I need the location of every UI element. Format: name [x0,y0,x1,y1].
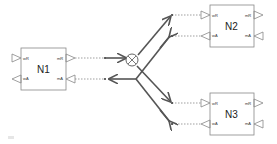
port-n1-wA-label: wA [23,76,29,81]
port-n1-wA-icon [12,75,21,83]
port-n1-wR-label: wR [23,56,29,61]
port-n2-wR-icon [201,11,210,19]
port-n3-mR-label: mR [245,101,251,106]
fork-lines [105,17,170,122]
node-n3-label: N3 [225,109,238,120]
node-n2-label: N2 [225,21,238,32]
port-n3-wR-icon [201,99,210,107]
port-n1-mR-label: mR [57,56,63,61]
port-n2-mA-label: mA [245,33,251,38]
node-n2[interactable]: N2 wR wA mR mA [201,5,263,47]
port-n2-wR-label: wR [212,13,218,18]
port-n3-mR-icon [254,99,263,107]
port-n1-mA-icon [66,75,75,83]
port-n3-wR-label: wR [212,101,218,106]
faint-mark [8,136,14,139]
port-n1-wR-icon [12,54,21,62]
port-n2-mA-icon [254,32,263,40]
port-n3-mA-label: mA [245,121,251,126]
node-n1-label: N1 [37,64,50,75]
node-n1[interactable]: N1 wR wA mR mA [12,48,75,90]
port-n2-wA-label: wA [212,33,218,38]
port-n3-mA-icon [254,120,263,128]
dashed-links [75,15,201,124]
port-n3-wA-icon [201,120,210,128]
junction-xor-icon [126,54,138,66]
port-n1-mA-label: mA [57,76,63,81]
port-n2-mR-label: mR [245,13,251,18]
port-n2-mR-icon [254,11,263,19]
link-dots [104,14,173,125]
port-n1-mR-icon [66,54,75,62]
node-n3[interactable]: N3 wR wA mR mA [201,93,263,135]
port-n2-wA-icon [201,32,210,40]
diagram-canvas: N1 wR wA mR mA N2 wR wA mR mA N3 wR wA m… [0,0,277,144]
port-n3-wA-label: wA [212,121,218,126]
